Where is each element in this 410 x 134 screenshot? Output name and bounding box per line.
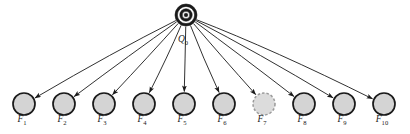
leaf-node-f3[interactable]: F3 [93,93,115,126]
edge-root-to-f1 [35,21,176,98]
leaf-label-f3: F3 [96,114,107,126]
root-ring-5 [184,13,188,17]
leaf-circle [133,93,155,115]
edge-root-to-f4 [149,25,181,92]
leaf-circle [13,93,35,115]
leaf-label-f6: F6 [216,114,227,126]
leaf-nodes-layer: F1F2F3F4F5F6F7F8F9F10 [13,93,395,126]
leaf-circle [373,93,395,115]
leaf-node-f9[interactable]: F9 [333,93,355,126]
edge-root-to-f3 [112,23,178,94]
leaf-label-f5: F5 [176,114,187,126]
star-topology-diagram: F1F2F3F4F5F6F7F8F9F10 Q0 [0,0,410,134]
leaf-circle [173,93,195,115]
leaf-node-f7[interactable]: F7 [253,93,275,126]
leaf-circle-dashed [253,93,275,115]
edge-root-to-f2 [74,22,177,97]
leaf-node-f5[interactable]: F5 [173,93,195,126]
leaf-node-f6[interactable]: F6 [213,93,235,126]
leaf-circle [53,93,75,115]
leaf-label-f9: F9 [336,114,347,126]
edge-root-to-f7 [194,24,256,95]
leaf-circle [213,93,235,115]
leaf-label-f7: F7 [256,114,267,126]
edges-layer [35,20,373,99]
root-node-layer: Q0 [175,4,197,46]
leaf-node-f8[interactable]: F8 [293,93,315,126]
leaf-circle [333,93,355,115]
leaf-node-f2[interactable]: F2 [53,93,75,126]
root-label: Q0 [178,34,189,46]
leaf-circle [93,93,115,115]
leaf-node-f1[interactable]: F1 [13,93,35,126]
leaf-circle [293,93,315,115]
diagram-canvas: F1F2F3F4F5F6F7F8F9F10 Q0 [0,0,410,134]
leaf-label-f4: F4 [136,114,147,126]
leaf-label-f10: F10 [375,114,389,126]
leaf-label-f8: F8 [296,114,307,126]
leaf-node-f10[interactable]: F10 [373,93,395,126]
edge-root-to-f8 [195,22,294,97]
edge-root-to-f10 [196,20,372,99]
root-node[interactable]: Q0 [175,4,197,46]
leaf-node-f4[interactable]: F4 [133,93,155,126]
edge-root-to-f6 [191,26,220,93]
